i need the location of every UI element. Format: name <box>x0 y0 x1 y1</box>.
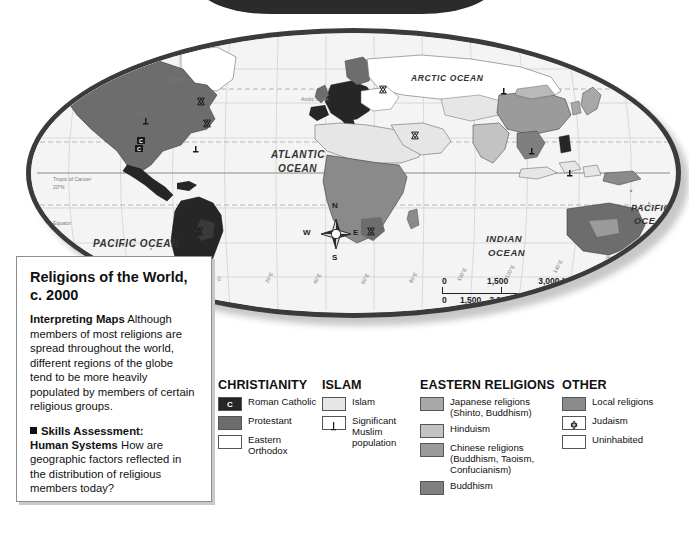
scale-bar-graphic <box>442 287 562 294</box>
scale-miles-max: 3,000 Miles <box>538 276 583 286</box>
bullet-square-icon <box>30 427 37 434</box>
caption-skills-bold: Skills Assessment: <box>41 425 144 437</box>
top-cutoff-ornament <box>196 0 496 14</box>
legend-swatch-catholic-c-marker: C <box>218 397 242 411</box>
legend-item[interactable]: CRoman Catholic <box>218 397 322 411</box>
korea <box>571 101 581 115</box>
legend-item-label: Uninhabited <box>592 435 643 446</box>
map-legend: CHRISTIANITYCRoman CatholicProtestantEas… <box>218 378 680 500</box>
legend-item-label: Local religions <box>592 397 653 408</box>
legend-item-label: Eastern Orthodox <box>248 435 322 457</box>
legend-heading-3: EASTERN RELIGIONS <box>420 378 562 392</box>
legend-heading-2: ISLAM <box>322 378 420 392</box>
legend-item-label: Chinese religions (Buddhism, Taoism, Con… <box>450 443 562 476</box>
legend-item[interactable]: Local religions <box>562 397 680 411</box>
legend-item-label: Judaism <box>592 416 628 427</box>
legend-item[interactable]: Japanese religions (Shinto, Buddhism) <box>420 397 562 419</box>
legend-item[interactable]: Hinduism <box>420 424 562 438</box>
legend-swatch-plain <box>562 435 586 449</box>
graticule-label-7: 40°N <box>136 111 148 117</box>
legend-heading-1: CHRISTIANITY <box>218 378 322 392</box>
legend-item-label: Roman Catholic <box>248 397 316 408</box>
legend-item-label: Hinduism <box>450 424 490 435</box>
legend-item[interactable]: Eastern Orthodox <box>218 435 322 457</box>
scale-km-mid: 1,500 <box>460 295 481 305</box>
compass-east-label: E <box>353 228 358 237</box>
legend-swatch-plain <box>218 416 242 430</box>
svg-text:C: C <box>139 138 143 144</box>
scale-miles-row: 0 1,500 3,000 Miles <box>442 276 617 286</box>
legend-column-2: ISLAMIslamSignificant Muslim population <box>322 378 420 500</box>
catholic-c-icon: C <box>219 398 241 410</box>
legend-swatch-plain <box>322 397 346 411</box>
caption-lead-text: Although members of most religions are s… <box>30 313 195 412</box>
philippines <box>559 135 571 153</box>
compass-west-label: W <box>303 228 311 237</box>
legend-item-label: Protestant <box>248 416 292 427</box>
legend-swatch-mosque-icon <box>322 416 346 430</box>
star-of-david-icon <box>563 419 585 431</box>
legend-column-1: CHRISTIANITYCRoman CatholicProtestantEas… <box>218 378 322 500</box>
caption-skills-assessment: Skills Assessment: Human Systems How are… <box>30 424 198 496</box>
compass-south-label: S <box>332 253 337 262</box>
graticule-label-1: Tropic of Cancer <box>53 176 91 182</box>
svg-text:C: C <box>137 146 141 152</box>
legend-item[interactable]: Significant Muslim population <box>322 416 420 449</box>
caption-lead-bold: Interpreting Maps <box>30 313 125 325</box>
alaska <box>41 75 71 95</box>
graticule-label-2: 20°N <box>53 184 65 190</box>
legend-item[interactable]: Protestant <box>218 416 322 430</box>
compass-north-label: N <box>332 201 338 210</box>
legend-item-label: Islam <box>352 397 375 408</box>
legend-swatch-plain <box>420 443 444 457</box>
scale-km-max: 3,000 Kilometers <box>489 295 557 305</box>
legend-item[interactable]: Uninhabited <box>562 435 680 449</box>
graticule-label-3: Equator <box>53 220 71 226</box>
graticule-label-0: Arctic Circle <box>301 96 329 102</box>
scale-miles-mid: 1,500 <box>487 276 508 286</box>
legend-swatch-plain <box>562 397 586 411</box>
legend-swatch-plain <box>420 424 444 438</box>
legend-item[interactable]: Chinese religions (Buddhism, Taoism, Con… <box>420 443 562 476</box>
projection-note-line1: Robinson Projection <box>442 307 617 313</box>
legend-swatch-plain <box>420 397 444 411</box>
compass-rose: N E S W <box>313 211 359 257</box>
mosque-icon <box>323 419 345 431</box>
map-scale-bar: 0 1,500 3,000 Miles 0 1,500 3,000 Kilome… <box>442 276 617 313</box>
caption-box: Religions of the World, c. 2000 Interpre… <box>16 256 212 502</box>
legend-item-label: Significant Muslim population <box>352 416 420 449</box>
legend-item[interactable]: Buddhism <box>420 481 562 495</box>
graticule-label-6: 60°N <box>171 77 183 83</box>
legend-item[interactable]: Islam <box>322 397 420 411</box>
legend-swatch-plain <box>420 481 444 495</box>
caption-interpreting-maps: Interpreting Maps Although members of mo… <box>30 312 198 413</box>
legend-swatch-star-of-david-icon <box>562 416 586 430</box>
caption-skills-bold2: Human Systems <box>30 439 118 451</box>
caption-title: Religions of the World, c. 2000 <box>30 269 198 304</box>
legend-item-label: Japanese religions (Shinto, Buddhism) <box>450 397 562 419</box>
scale-km-row: 0 1,500 3,000 Kilometers <box>442 295 617 305</box>
legend-column-3: EASTERN RELIGIONSJapanese religions (Shi… <box>420 378 562 500</box>
legend-heading-4: OTHER <box>562 378 680 392</box>
legend-item-label: Buddhism <box>450 481 493 492</box>
legend-swatch-plain <box>218 435 242 449</box>
legend-column-4: OTHERLocal religionsJudaismUninhabited <box>562 378 680 500</box>
legend-item[interactable]: Judaism <box>562 416 680 430</box>
new-zealand <box>655 245 667 261</box>
